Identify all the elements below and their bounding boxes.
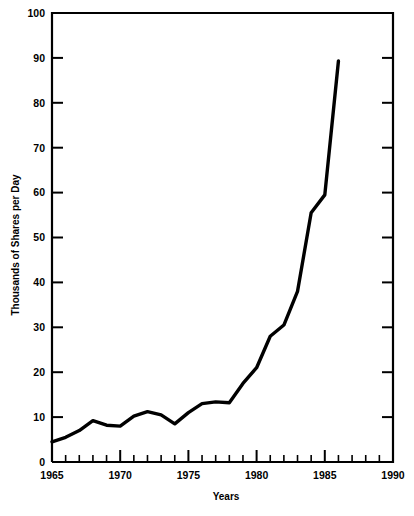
series-line [52, 61, 338, 442]
x-tick-label: 1990 [381, 469, 405, 481]
plot-frame [52, 13, 393, 462]
y-axis-title: Thousands of Shares per Day [10, 174, 21, 316]
y-tick-label: 50 [33, 231, 45, 243]
x-axis-tick-labels: 196519701975198019851990 [40, 469, 405, 481]
line-chart: 196519701975198019851990 010203040506070… [0, 0, 414, 516]
axes [52, 13, 393, 462]
y-axis-tick-labels: 0102030405060708090100 [27, 7, 45, 468]
y-tick-label: 100 [27, 7, 45, 19]
y-axis-ticks [52, 58, 393, 417]
y-tick-label: 30 [33, 321, 45, 333]
y-tick-label: 80 [33, 97, 45, 109]
data-series [52, 61, 338, 442]
y-tick-label: 90 [33, 52, 45, 64]
y-tick-label: 70 [33, 142, 45, 154]
x-tick-label: 1980 [245, 469, 269, 481]
chart-container: 196519701975198019851990 010203040506070… [0, 0, 414, 516]
x-axis-title: Years [213, 491, 240, 502]
x-tick-label: 1970 [109, 469, 133, 481]
y-tick-label: 40 [33, 276, 45, 288]
x-axis-ticks [66, 450, 380, 462]
x-tick-label: 1965 [40, 469, 64, 481]
y-tick-label: 0 [39, 456, 45, 468]
y-tick-label: 60 [33, 186, 45, 198]
y-tick-label: 10 [33, 411, 45, 423]
x-tick-label: 1975 [177, 469, 201, 481]
x-tick-label: 1985 [313, 469, 337, 481]
y-tick-label: 20 [33, 366, 45, 378]
